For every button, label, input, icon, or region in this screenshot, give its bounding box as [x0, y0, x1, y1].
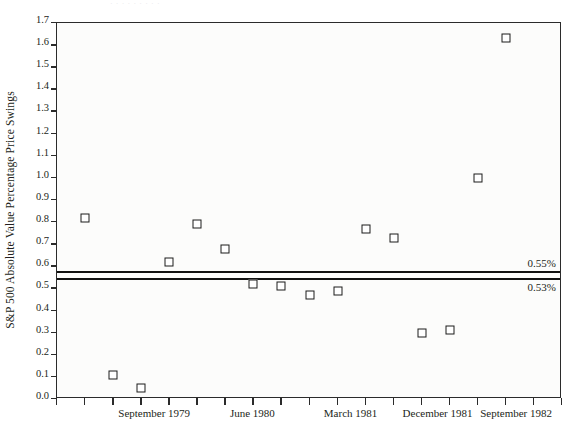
- x-axis-tick: [393, 398, 394, 405]
- data-point-marker: [333, 286, 342, 295]
- x-axis-tick: [84, 398, 85, 405]
- x-axis-tick: [365, 398, 366, 405]
- x-axis-tick: [309, 398, 310, 405]
- x-axis-tick: [533, 398, 534, 405]
- data-point-marker: [137, 383, 146, 392]
- y-axis-tick-label: 1.0: [36, 169, 49, 180]
- x-axis-tick: [56, 398, 57, 405]
- y-axis-tick: 0.3: [0, 332, 56, 333]
- x-axis-tick: [449, 398, 450, 405]
- y-axis-tick-label: 0.0: [36, 390, 49, 401]
- y-axis-tick-label: 1.5: [36, 58, 49, 69]
- x-axis-tick: [224, 398, 225, 405]
- x-axis-tick-label: June 1980: [230, 407, 275, 419]
- y-axis-tick: 0.6: [0, 265, 56, 266]
- data-point-marker: [109, 370, 118, 379]
- y-axis-tick: 0.9: [0, 199, 56, 200]
- y-axis-tick: 1.0: [0, 177, 56, 178]
- y-axis-tick-label: 0.8: [36, 213, 49, 224]
- y-axis-tick-label: 0.9: [36, 191, 49, 202]
- x-axis-tick: [477, 398, 478, 405]
- data-point-marker: [361, 224, 370, 233]
- x-axis-tick: [196, 398, 197, 405]
- data-point-marker: [473, 173, 482, 182]
- data-point-marker: [417, 328, 426, 337]
- y-axis-tick-label: 1.1: [36, 147, 49, 158]
- data-point-marker: [445, 326, 454, 335]
- y-axis-tick-label: 1.4: [36, 80, 49, 91]
- data-point-marker: [81, 213, 90, 222]
- y-axis-tick-label: 1.6: [36, 36, 49, 47]
- x-axis-tick-label: September 1979: [118, 407, 190, 419]
- y-axis-tick-label: 1.2: [36, 125, 49, 136]
- data-point-marker: [165, 257, 174, 266]
- data-point-marker: [501, 34, 510, 43]
- y-axis-tick: 0.5: [0, 287, 56, 288]
- plot-area: 0.55%0.53%: [56, 22, 561, 398]
- x-axis-tick: [112, 398, 113, 405]
- reference-line: [57, 271, 560, 273]
- reference-line: [57, 278, 560, 280]
- y-axis-tick: 0.8: [0, 221, 56, 222]
- x-axis-tick: [561, 398, 562, 405]
- x-axis-tick-label: December 1981: [403, 407, 473, 419]
- x-axis-tick: [505, 398, 506, 405]
- x-axis-tick: [252, 398, 253, 405]
- data-point-marker: [277, 282, 286, 291]
- x-axis-tick: [168, 398, 169, 405]
- data-point-marker: [389, 233, 398, 242]
- y-axis-tick: 1.1: [0, 155, 56, 156]
- y-axis-tick-label: 0.4: [36, 302, 49, 313]
- y-axis-tick: 1.5: [0, 66, 56, 67]
- cropped-title-remnant: · · · · · · · · ·: [110, 0, 490, 8]
- y-axis-tick: 1.4: [0, 88, 56, 89]
- y-axis-tick-label: 0.6: [36, 257, 49, 268]
- y-axis-tick-label: 0.7: [36, 235, 49, 246]
- y-axis: 0.00.10.20.30.40.50.60.70.80.91.01.11.21…: [0, 0, 56, 436]
- y-axis-tick-label: 1.3: [36, 102, 49, 113]
- y-axis-tick: 1.7: [0, 22, 56, 23]
- x-axis-tick-label: September 1982: [480, 407, 552, 419]
- x-axis-tick: [280, 398, 281, 405]
- y-axis-tick-label: 0.5: [36, 279, 49, 290]
- reference-line-label: 0.55%: [528, 257, 556, 269]
- y-axis-tick: 1.3: [0, 110, 56, 111]
- data-point-marker: [249, 279, 258, 288]
- chart-figure: · · · · · · · · · S&P 500 Absolute Value…: [0, 0, 576, 436]
- data-point-marker: [221, 244, 230, 253]
- data-point-marker: [305, 291, 314, 300]
- x-axis-tick: [337, 398, 338, 405]
- y-axis-tick-label: 0.3: [36, 324, 49, 335]
- y-axis-tick: 0.0: [0, 398, 56, 399]
- data-point-marker: [193, 220, 202, 229]
- y-axis-tick-label: 0.1: [36, 368, 49, 379]
- y-axis-tick: 1.6: [0, 44, 56, 45]
- x-axis-tick-label: March 1981: [324, 407, 377, 419]
- reference-line-label: 0.53%: [528, 281, 556, 293]
- x-axis-tick: [140, 398, 141, 405]
- y-axis-tick: 0.7: [0, 243, 56, 244]
- y-axis-tick-label: 1.7: [36, 14, 49, 25]
- y-axis-tick: 0.2: [0, 354, 56, 355]
- y-axis-tick: 1.2: [0, 133, 56, 134]
- y-axis-tick-label: 0.2: [36, 346, 49, 357]
- x-axis-tick: [421, 398, 422, 405]
- y-axis-tick: 0.4: [0, 310, 56, 311]
- y-axis-tick: 0.1: [0, 376, 56, 377]
